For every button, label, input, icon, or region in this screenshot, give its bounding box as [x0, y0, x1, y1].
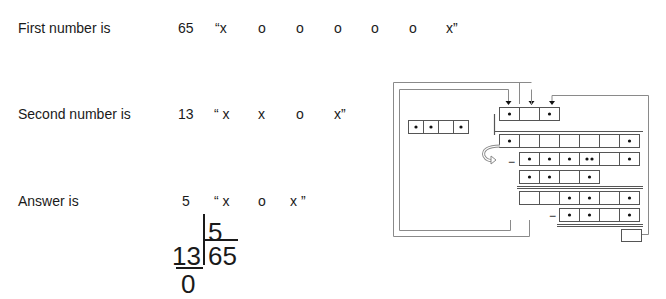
bead-dot — [429, 125, 432, 128]
outer-bottom-line — [394, 220, 530, 237]
dividend-row-cell — [520, 135, 540, 148]
outer-frame-line — [394, 83, 520, 237]
bead-dot — [628, 157, 631, 160]
quotient-row-cell — [520, 108, 540, 121]
bead-dot — [590, 157, 593, 160]
bead-dot — [588, 175, 591, 178]
bead-dot — [588, 196, 591, 199]
bead-dot — [588, 213, 591, 216]
bead-dot — [459, 125, 462, 128]
bead-dot — [548, 175, 551, 178]
curved-arrow-head-icon — [491, 156, 496, 164]
result-row-cell — [600, 192, 620, 205]
dividend-row-cell — [560, 135, 580, 148]
inner-bottom-line — [400, 220, 511, 231]
subtract-row-3-cell — [600, 209, 620, 222]
minus-sign: − — [508, 155, 515, 169]
bead-dot — [585, 157, 588, 160]
subtract-row-1-cell — [580, 153, 600, 166]
bead-dot — [568, 213, 571, 216]
bead-dot — [548, 112, 551, 115]
bead-dot — [508, 112, 511, 115]
arrow-down-icon — [506, 101, 512, 105]
bead-dot — [508, 139, 511, 142]
bead-dot — [628, 196, 631, 199]
bead-dot — [528, 175, 531, 178]
result-row-cell — [540, 192, 560, 205]
subtract-row-2-cell — [560, 171, 580, 184]
subtract-row-1-cell — [600, 153, 620, 166]
bead-dot — [568, 196, 571, 199]
bead-division-diagram: −− — [0, 0, 666, 299]
result-row-cell — [520, 192, 540, 205]
remainder-box-cell — [622, 230, 642, 242]
dividend-row-cell — [600, 135, 620, 148]
divisor-row-cell — [439, 121, 454, 134]
bead-dot — [528, 157, 531, 160]
bead-dot — [414, 125, 417, 128]
dividend-row-cell — [580, 135, 600, 148]
bead-dot — [548, 157, 551, 160]
dividend-row-cell — [540, 135, 560, 148]
minus-sign: − — [549, 209, 556, 223]
bead-dot — [568, 157, 571, 160]
bead-dot — [628, 139, 631, 142]
bead-dot — [628, 213, 631, 216]
arrow-down-icon — [549, 101, 555, 105]
